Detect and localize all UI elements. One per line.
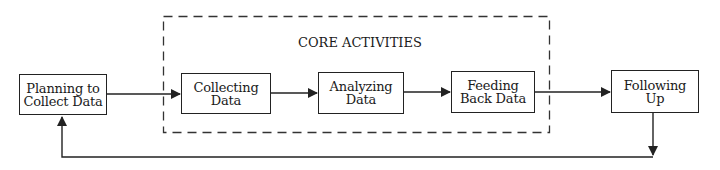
node-following-line1: Following <box>624 79 686 92</box>
node-following-line2: Up <box>624 92 686 105</box>
node-analyzing: Analyzing Data <box>318 72 404 114</box>
node-planning-line1: Planning to <box>23 82 102 95</box>
node-planning-line2: Collect Data <box>23 95 102 108</box>
feedback-loop-line <box>62 117 653 157</box>
node-collecting: Collecting Data <box>181 73 271 114</box>
core-activities-label: CORE ACTIVITIES <box>298 35 422 50</box>
flow-diagram: CORE ACTIVITIES Planning to Collect Data… <box>0 0 720 170</box>
node-collecting-line2: Data <box>193 94 258 107</box>
node-analyzing-line2: Data <box>330 93 393 106</box>
node-collecting-line1: Collecting <box>193 81 258 94</box>
node-following: Following Up <box>611 70 699 113</box>
node-planning: Planning to Collect Data <box>19 74 107 115</box>
node-feeding-line2: Back Data <box>460 92 526 105</box>
node-feeding: Feeding Back Data <box>451 71 535 113</box>
